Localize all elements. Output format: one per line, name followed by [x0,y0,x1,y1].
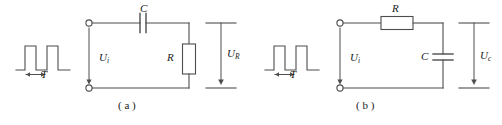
period-label-a: T [41,69,47,80]
circuit-panel-b: T Ui R C Uc ( b ) [251,0,502,125]
resistor-label-b: R [392,3,399,14]
capacitor-label-b: C [421,51,428,62]
output-voltage-label-a: UR [227,48,240,59]
input-terminal-top-b [337,20,343,26]
input-terminal-top-a [86,20,92,26]
circuit-panel-a: T Ui C R UR ( a ) [0,0,251,125]
input-voltage-arrow-b [337,28,342,85]
resistor-body-b [381,17,413,30]
resistor-label-a: R [167,52,174,63]
input-terminal-bottom-b [337,85,343,91]
capacitor-label-a: C [140,3,147,14]
circuit-b-schematic [251,0,502,125]
input-voltage-label-b: Ui [350,52,360,63]
input-waveform-b [265,46,319,70]
panel-caption-a: ( a ) [118,100,136,111]
output-voltage-label-b: Uc [480,50,491,61]
panel-caption-b: ( b ) [356,100,374,111]
input-voltage-label-a: Ui [99,52,109,63]
figure-root: T Ui C R UR ( a ) [0,0,502,125]
input-waveform-a [16,46,70,70]
input-voltage-arrow-a [86,28,91,85]
input-terminal-bottom-a [86,85,92,91]
period-label-b: T [290,69,296,80]
resistor-body-a [183,44,196,74]
